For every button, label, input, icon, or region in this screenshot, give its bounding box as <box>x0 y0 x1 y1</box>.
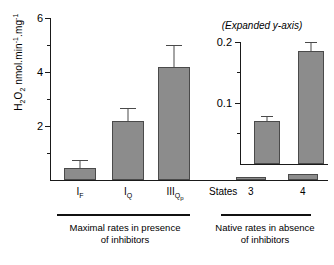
x-label-IQ: IQ <box>108 186 148 199</box>
inset-bar-state-3 <box>254 121 280 164</box>
x-label-IIIQp: IIIQp <box>152 186 198 201</box>
x-label-IQ-sub: Q <box>127 192 132 199</box>
errorbar-IQ <box>120 108 136 121</box>
inset-chart-panel: (Expanded y-axis) 0.2 0.1 <box>196 20 328 168</box>
y-tick-label-6: 6 <box>21 12 43 24</box>
left-caption-line1: Maximal rates in presence <box>30 222 220 234</box>
bar-state-4 <box>288 174 318 180</box>
inset-errorbar-state-4 <box>305 42 317 51</box>
inset-y-axis-line <box>240 42 241 164</box>
errorbar-stem <box>267 116 268 121</box>
inset-errorbar-state-3 <box>261 116 273 121</box>
y-tick-4 <box>45 72 50 73</box>
y-tick-5-minor <box>47 45 50 46</box>
left-caption-line2: of inhibitors <box>30 234 220 246</box>
bar-state-3 <box>236 177 266 180</box>
inset-y-tick-015-minor <box>237 72 240 73</box>
errorbar-stem <box>80 160 81 168</box>
y-tick-1-minor <box>47 153 50 154</box>
errorbar-stem <box>174 45 175 67</box>
inset-y-tick-01 <box>235 103 240 104</box>
right-caption-line1: Native rates in absence <box>196 222 334 234</box>
inset-y-tick-02 <box>235 42 240 43</box>
x-label-IIIQp-sub: Qp <box>175 192 184 199</box>
inset-title: (Expanded y-axis) <box>196 20 328 31</box>
inset-y-tick-label-01: 0.1 <box>198 97 232 109</box>
right-caption-line2: of inhibitors <box>196 234 334 246</box>
left-caption-rule <box>57 214 190 216</box>
errorbar-IIIQp <box>166 45 182 67</box>
y-axis-label-text: H2O2 nmol.min-1.mg-1 <box>13 14 24 111</box>
figure-container: H2O2 nmol.min-1.mg-1 6 4 2 <box>0 0 334 265</box>
states-group-label: States <box>209 186 237 197</box>
errorbar-IF <box>72 160 88 168</box>
bar-IF <box>64 168 96 180</box>
y-tick-2 <box>45 126 50 127</box>
x-label-IF: IF <box>60 186 100 199</box>
x-label-state-3: 3 <box>248 186 254 197</box>
y-tick-6 <box>45 18 50 19</box>
errorbar-stem <box>311 42 312 51</box>
bar-IIIQp <box>158 67 190 180</box>
inset-x-axis-line <box>240 164 328 165</box>
x-label-IF-sub: F <box>79 192 83 199</box>
inset-y-tick-005-minor <box>237 133 240 134</box>
inset-y-tick-label-02: 0.2 <box>198 36 232 48</box>
y-tick-label-4: 4 <box>21 66 43 78</box>
y-tick-3-minor <box>47 99 50 100</box>
inset-bar-state-4 <box>298 51 324 164</box>
x-label-IIIQp-main: III <box>166 186 174 197</box>
errorbar-stem <box>128 108 129 121</box>
right-caption: Native rates in absence of inhibitors <box>196 222 334 246</box>
x-label-state-4: 4 <box>300 186 306 197</box>
main-y-axis-line <box>50 18 51 180</box>
left-caption: Maximal rates in presence of inhibitors <box>30 222 220 246</box>
right-caption-rule <box>221 214 311 216</box>
x-label-IIIQp-sub-p: p <box>180 195 183 201</box>
main-x-axis-line <box>50 180 328 181</box>
y-tick-label-2: 2 <box>21 120 43 132</box>
bar-IQ <box>112 121 144 180</box>
